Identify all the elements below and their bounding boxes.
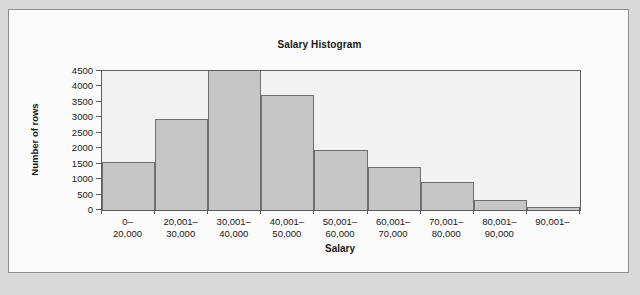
bar[interactable] bbox=[155, 119, 208, 210]
x-axis-tick-label: 20,001– 30,000 bbox=[154, 216, 207, 240]
x-axis-tick bbox=[579, 209, 580, 214]
chart-title: Salary Histogram bbox=[9, 39, 630, 50]
x-axis-ticks bbox=[101, 209, 579, 214]
x-axis-tick bbox=[367, 209, 368, 214]
plot-area bbox=[101, 70, 581, 211]
bar-slot bbox=[155, 71, 208, 210]
bar-slot bbox=[368, 71, 421, 210]
bar-slot bbox=[474, 71, 527, 210]
bar-series bbox=[102, 71, 580, 210]
x-axis-tick-label: 40,001– 50,000 bbox=[260, 216, 313, 240]
x-axis-tick bbox=[526, 209, 527, 214]
y-axis-tick-label: 2500 bbox=[72, 126, 93, 137]
bar-slot bbox=[314, 71, 367, 210]
x-axis-tick-label: 60,001– 70,000 bbox=[367, 216, 420, 240]
x-axis-tick bbox=[207, 209, 208, 214]
x-axis-tick-label: 80,001– 90,000 bbox=[473, 216, 526, 240]
x-axis-tick-label: 70,001– 80,000 bbox=[420, 216, 473, 240]
bar-slot bbox=[421, 71, 474, 210]
x-axis-tick bbox=[420, 209, 421, 214]
bar-slot bbox=[527, 71, 580, 210]
chart-figure-panel: Salary Histogram Number of rows 05001000… bbox=[8, 9, 629, 273]
bar[interactable] bbox=[421, 182, 474, 210]
y-axis-tick-label: 500 bbox=[77, 188, 93, 199]
x-axis-tick bbox=[313, 209, 314, 214]
y-axis-title: Number of rows bbox=[29, 0, 43, 70]
y-axis-tick-label: 2000 bbox=[72, 142, 93, 153]
bar[interactable] bbox=[261, 95, 314, 210]
page-background: Salary Histogram Number of rows 05001000… bbox=[0, 0, 640, 295]
x-axis-title: Salary bbox=[101, 243, 579, 254]
y-axis-tick-label: 0 bbox=[88, 204, 93, 215]
x-axis-tick-label: 50,001– 60,000 bbox=[313, 216, 366, 240]
y-axis-tick-label: 3000 bbox=[72, 111, 93, 122]
y-axis-tick-label: 4500 bbox=[72, 65, 93, 76]
x-axis-tick-label: 30,001– 40,000 bbox=[207, 216, 260, 240]
y-axis-tick-label: 4000 bbox=[72, 80, 93, 91]
y-axis-tick-label: 1500 bbox=[72, 157, 93, 168]
bar[interactable] bbox=[314, 150, 367, 210]
x-axis-tick-label: 0– 20,000 bbox=[101, 216, 154, 240]
x-axis-tick-label: 90,001– bbox=[526, 216, 579, 240]
bar-slot bbox=[102, 71, 155, 210]
bar[interactable] bbox=[102, 162, 155, 210]
y-axis-tick-label: 3500 bbox=[72, 95, 93, 106]
x-axis-tick bbox=[260, 209, 261, 214]
bar-slot bbox=[261, 71, 314, 210]
y-axis-title-text: Number of rows bbox=[29, 70, 40, 209]
x-axis-tick bbox=[154, 209, 155, 214]
y-axis-tick-label: 1000 bbox=[72, 173, 93, 184]
bar[interactable] bbox=[208, 71, 261, 210]
x-axis-tick bbox=[101, 209, 102, 214]
x-axis-tick bbox=[473, 209, 474, 214]
bar[interactable] bbox=[368, 167, 421, 210]
x-axis-tick-labels: 0– 20,00020,001– 30,00030,001– 40,00040,… bbox=[101, 216, 579, 240]
bar-slot bbox=[208, 71, 261, 210]
